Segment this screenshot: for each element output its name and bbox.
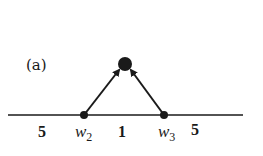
node-w2-label: w2 xyxy=(75,122,92,144)
node-w2-label-sub: 2 xyxy=(86,130,92,144)
node-w3 xyxy=(160,111,168,119)
panel-label: (a) xyxy=(26,56,47,74)
weight-middle-label: 1 xyxy=(118,123,126,140)
edge-w2-to-top xyxy=(84,70,119,115)
edge-w3-to-top xyxy=(131,70,164,115)
node-w3-label-sub: 3 xyxy=(169,130,175,144)
weight-left-label: 5 xyxy=(38,123,46,140)
node-top xyxy=(118,57,132,71)
node-w2 xyxy=(80,111,88,119)
node-w3-label-base: w xyxy=(158,122,170,141)
graph-diagram: (a) 5 w2 1 w3 5 xyxy=(0,0,263,156)
node-w2-label-base: w xyxy=(75,122,87,141)
node-w3-label: w3 xyxy=(158,122,175,144)
weight-right-label: 5 xyxy=(191,121,199,138)
